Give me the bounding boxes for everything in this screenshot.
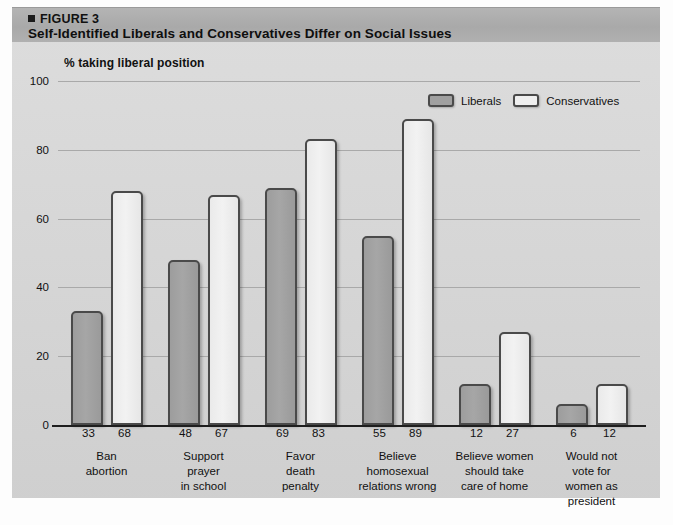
x-axis-category-label: Believe women should take care of home: [446, 449, 543, 494]
y-axis-title: % taking liberal position: [64, 56, 205, 70]
bar-liberals-3[interactable]: [362, 236, 394, 425]
bar-liberals-0[interactable]: [71, 311, 103, 425]
x-axis-category-label: Would not vote for women as president: [543, 449, 640, 509]
plot-area: 020406080100: [58, 81, 640, 425]
bar-value-label: 68: [107, 427, 143, 439]
y-axis-tick-label: 40: [36, 281, 49, 293]
x-axis-category-label: Favor death penalty: [252, 449, 349, 494]
bar-value-label: 83: [301, 427, 337, 439]
value-row: 3368: [58, 427, 155, 439]
bar-group: [446, 81, 543, 425]
bar-group: [252, 81, 349, 425]
value-row: 612: [543, 427, 640, 439]
bar-value-label: 67: [204, 427, 240, 439]
category-label-block: 5589Believe homosexual relations wrong: [349, 427, 446, 494]
bar-conservatives-2[interactable]: [305, 139, 337, 425]
figure-title: Self-Identified Liberals and Conservativ…: [28, 26, 452, 41]
chart-frame: % taking liberal position Liberals Conse…: [12, 42, 660, 498]
figure-header-band: FIGURE 3 Self-Identified Liberals and Co…: [12, 7, 660, 42]
bar-group: [543, 81, 640, 425]
x-axis-category-label: Support prayer in school: [155, 449, 252, 494]
bar-group: [155, 81, 252, 425]
bar-liberals-2[interactable]: [265, 188, 297, 425]
x-axis-category-label: Believe homosexual relations wrong: [349, 449, 446, 494]
figure-number-label: FIGURE 3: [40, 12, 99, 26]
y-axis-tick-label: 20: [36, 350, 49, 362]
bar-liberals-5[interactable]: [556, 404, 588, 425]
bar-value-label: 27: [495, 427, 531, 439]
bar-value-label: 69: [265, 427, 301, 439]
value-row: 1227: [446, 427, 543, 439]
bar-value-label: 89: [398, 427, 434, 439]
bar-value-label: 48: [168, 427, 204, 439]
y-axis-tick-label: 60: [36, 213, 49, 225]
bar-conservatives-1[interactable]: [208, 195, 240, 425]
category-label-block: 1227Believe women should take care of ho…: [446, 427, 543, 494]
bar-conservatives-4[interactable]: [499, 332, 531, 425]
figure-page: FIGURE 3 Self-Identified Liberals and Co…: [0, 0, 673, 525]
bar-conservatives-3[interactable]: [402, 119, 434, 425]
figure-number-line: FIGURE 3: [28, 12, 99, 26]
category-labels-group: 3368Ban abortion4867Support prayer in sc…: [58, 427, 640, 522]
bar-conservatives-5[interactable]: [596, 384, 628, 425]
bullet-square-icon: [28, 15, 35, 22]
bar-value-label: 12: [459, 427, 495, 439]
bar-group: [349, 81, 446, 425]
bars-group: [58, 81, 640, 425]
y-axis-tick-label: 100: [30, 75, 49, 87]
bar-value-label: 12: [592, 427, 628, 439]
value-row: 5589: [349, 427, 446, 439]
bar-value-label: 33: [71, 427, 107, 439]
bar-group: [58, 81, 155, 425]
x-axis-category-label: Ban abortion: [58, 449, 155, 479]
y-axis-tick-label: 0: [43, 419, 49, 431]
bar-value-label: 55: [362, 427, 398, 439]
bar-conservatives-0[interactable]: [111, 191, 143, 425]
bar-liberals-1[interactable]: [168, 260, 200, 425]
y-axis-tick-label: 80: [36, 144, 49, 156]
value-row: 6983: [252, 427, 349, 439]
bar-liberals-4[interactable]: [459, 384, 491, 425]
value-row: 4867: [155, 427, 252, 439]
category-label-block: 612Would not vote for women as president: [543, 427, 640, 509]
category-label-block: 6983Favor death penalty: [252, 427, 349, 494]
category-label-block: 4867Support prayer in school: [155, 427, 252, 494]
category-label-block: 3368Ban abortion: [58, 427, 155, 479]
bar-value-label: 6: [556, 427, 592, 439]
